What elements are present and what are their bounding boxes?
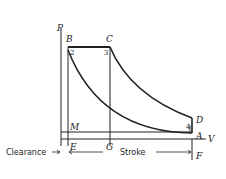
point-m-label: M (69, 122, 80, 132)
point-g-label: G (106, 142, 113, 152)
pv-diagram: P V B C D A M E G F 2 3 4 Clearance Stro… (0, 0, 226, 179)
point-f-label: F (195, 151, 203, 161)
v-axis-label: V (208, 134, 216, 144)
p-axis-label: P (56, 23, 64, 33)
stroke-label: Stroke (120, 148, 146, 157)
point-a-label: A (195, 131, 203, 141)
point-d-label: D (195, 115, 203, 125)
state-4-label: 4 (186, 123, 191, 131)
point-c-label: C (106, 34, 113, 44)
curve-a-b (68, 50, 192, 133)
state-3-label: 3 (104, 49, 108, 57)
clearance-label: Clearance (6, 148, 46, 157)
curve-c-d (110, 47, 192, 118)
state-2-label: 2 (70, 49, 74, 57)
point-e-label: E (69, 142, 77, 152)
point-b-label: B (65, 34, 73, 44)
